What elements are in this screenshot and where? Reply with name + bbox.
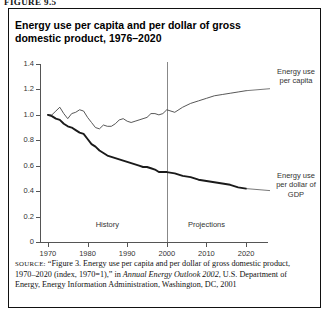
- y-axis-tick-label: 1.2: [10, 84, 34, 93]
- series-line-energy-per-gdp: [48, 115, 246, 189]
- chart-series-lines: [40, 64, 294, 246]
- y-axis-tick-label: 0.6: [10, 161, 34, 170]
- y-axis-tick-label: 0.2: [10, 212, 34, 221]
- y-axis-tick-label: 0.4: [10, 186, 34, 195]
- x-axis-tick-label: 2010: [191, 249, 221, 258]
- y-axis-tick-label: 1.4: [10, 59, 34, 68]
- series-leader-line: [246, 189, 270, 191]
- x-axis-tick-label: 1980: [73, 249, 103, 258]
- chart-plot-area: 00.20.40.60.81.01.21.4 19701980199020002…: [40, 64, 254, 242]
- figure-number-label: FIGURE 9.5: [4, 0, 57, 7]
- y-axis-tick-label: 1.0: [10, 110, 34, 119]
- x-axis-tick-label: 1970: [33, 249, 63, 258]
- series-label-energy-per-gdp: Energy use per dollar of GDP: [274, 171, 318, 200]
- series-leader-line: [246, 89, 270, 91]
- source-kicker: SOURCE:: [15, 260, 46, 267]
- source-publication-title: Annual Energy Outlook 2002: [123, 270, 219, 279]
- x-axis-tick-label: 2000: [152, 249, 182, 258]
- history-period-label: History: [77, 220, 137, 229]
- x-axis-tick-label: 2020: [231, 249, 261, 258]
- chart-title: Energy use per capita and per dollar of …: [15, 19, 265, 45]
- x-axis-tick-label: 1990: [112, 249, 142, 258]
- series-line-energy-per-capita: [48, 91, 246, 129]
- source-note: SOURCE: “Figure 3. Energy use per capita…: [15, 259, 307, 291]
- series-label-energy-per-capita: Energy use per capita: [274, 67, 318, 86]
- projections-period-label: Projections: [176, 220, 236, 229]
- y-axis-tick-label: 0: [10, 237, 34, 246]
- figure-page: FIGURE 9.5 Energy use per capita and per…: [0, 0, 331, 317]
- y-axis-tick-label: 0.8: [10, 135, 34, 144]
